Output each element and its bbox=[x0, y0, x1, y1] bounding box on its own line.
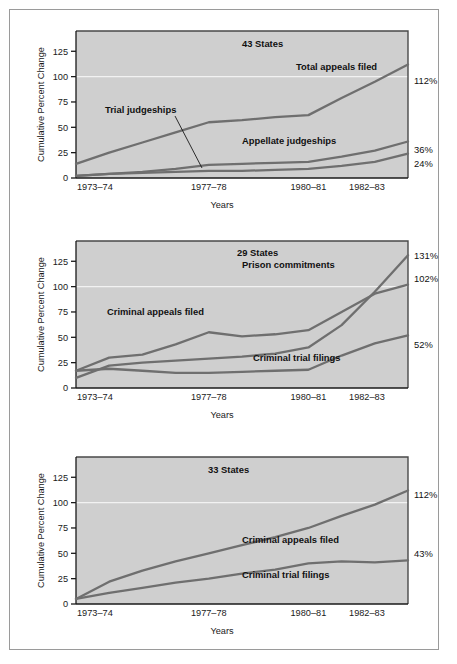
y-tick-label: 0 bbox=[63, 173, 68, 183]
y-tick-label: 50 bbox=[58, 549, 68, 559]
y-axis-title: Cumulative Percent Change bbox=[36, 47, 46, 162]
y-tick-label: 25 bbox=[58, 148, 68, 158]
y-tick-label: 25 bbox=[58, 358, 68, 368]
y-tick-label: 75 bbox=[58, 97, 68, 107]
x-tick-label: 1982–83 bbox=[349, 182, 385, 192]
end-value-prison-commitments: 131% bbox=[414, 250, 438, 261]
y-tick-label: 75 bbox=[58, 307, 68, 317]
x-axis-title: Years bbox=[210, 200, 234, 210]
y-tick-label: 100 bbox=[53, 282, 68, 292]
x-tick-label: 1973–74 bbox=[77, 392, 113, 402]
y-axis-title: Cumulative Percent Change bbox=[36, 257, 46, 372]
y-tick-label: 75 bbox=[58, 523, 68, 533]
series-label-prison-commitments: Prison commitments bbox=[242, 259, 335, 270]
x-axis-title: Years bbox=[210, 626, 234, 636]
panel-state-count-note: 33 States bbox=[208, 464, 249, 475]
series-label-total-appeals-filed: Total appeals filed bbox=[296, 61, 377, 72]
y-tick-label: 125 bbox=[53, 473, 68, 483]
end-value-criminal-appeals-filed: 102% bbox=[414, 273, 438, 284]
end-value-criminal-appeals-filed: 112% bbox=[414, 489, 437, 500]
x-tick-label: 1980–81 bbox=[291, 392, 327, 402]
chart-svg-panel-1: 0255075100125Cumulative Percent Change19… bbox=[10, 10, 440, 220]
figure-page: 0255075100125Cumulative Percent Change19… bbox=[0, 0, 457, 664]
chart-panel-33-states: 0255075100125Cumulative Percent Change19… bbox=[10, 436, 440, 651]
x-tick-label: 1980–81 bbox=[291, 608, 327, 618]
x-tick-label: 1982–83 bbox=[349, 608, 385, 618]
chart-svg-panel-2: 0255075100125Cumulative Percent Change19… bbox=[10, 220, 440, 436]
x-tick-label: 1977–78 bbox=[191, 182, 227, 192]
series-label-criminal-trial-filings: Criminal trial filings bbox=[253, 352, 341, 363]
y-tick-label: 0 bbox=[63, 599, 68, 609]
y-tick-label: 125 bbox=[53, 257, 68, 267]
series-label-criminal-trial-filings: Criminal trial filings bbox=[242, 569, 330, 580]
y-tick-label: 0 bbox=[63, 383, 68, 393]
series-label-appellate-judgeships: Appellate judgeships bbox=[242, 135, 336, 146]
x-tick-label: 1973–74 bbox=[77, 182, 113, 192]
end-value-appellate-judgeships: 36% bbox=[414, 144, 433, 155]
y-tick-label: 100 bbox=[53, 72, 68, 82]
end-value-criminal-trial-filings: 52% bbox=[414, 339, 433, 350]
chart-panel-29-states: 0255075100125Cumulative Percent Change19… bbox=[10, 220, 440, 436]
x-tick-label: 1977–78 bbox=[191, 392, 227, 402]
x-tick-label: 1982–83 bbox=[349, 392, 385, 402]
y-tick-label: 25 bbox=[58, 574, 68, 584]
figure-frame: 0255075100125Cumulative Percent Change19… bbox=[9, 9, 439, 650]
end-value-total-appeals-filed: 112% bbox=[414, 75, 437, 86]
panel-state-count-note: 29 States bbox=[237, 247, 278, 258]
x-tick-label: 1980–81 bbox=[291, 182, 327, 192]
y-tick-label: 50 bbox=[58, 123, 68, 133]
y-tick-label: 50 bbox=[58, 333, 68, 343]
series-label-criminal-appeals-filed: Criminal appeals filed bbox=[242, 534, 339, 545]
y-tick-label: 125 bbox=[53, 47, 68, 57]
chart-panel-43-states: 0255075100125Cumulative Percent Change19… bbox=[10, 10, 440, 220]
plot-background bbox=[76, 457, 408, 604]
y-tick-label: 100 bbox=[53, 498, 68, 508]
end-value-criminal-trial-filings: 43% bbox=[414, 548, 433, 559]
x-tick-label: 1977–78 bbox=[191, 608, 227, 618]
end-value-trial-judgeships: 24% bbox=[414, 158, 433, 169]
chart-svg-panel-3: 0255075100125Cumulative Percent Change19… bbox=[10, 436, 440, 651]
series-label-trial-judgeships: Trial judgeships bbox=[105, 104, 176, 115]
panel-state-count-note: 43 States bbox=[242, 38, 283, 49]
y-axis-title: Cumulative Percent Change bbox=[36, 473, 46, 588]
x-tick-label: 1973–74 bbox=[77, 608, 113, 618]
series-label-criminal-appeals-filed: Criminal appeals filed bbox=[107, 306, 204, 317]
x-axis-title: Years bbox=[210, 410, 234, 420]
